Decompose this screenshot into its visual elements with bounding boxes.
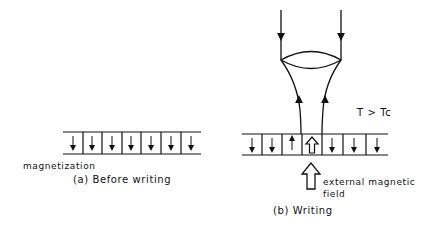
- external-field-label-line2: field: [323, 189, 345, 199]
- left-magnetic-layer: [63, 132, 201, 154]
- temperature-condition: T > Tc: [357, 107, 391, 118]
- external-field-label-line1: external magnetic: [323, 177, 415, 187]
- left-magnetization-arrows: [73, 136, 191, 148]
- laser-beam: [281, 10, 341, 134]
- focusing-lens: [281, 52, 341, 69]
- caption-before-writing: (a) Before writing: [73, 174, 171, 185]
- magnetization-label: magnetization: [23, 161, 96, 171]
- external-field-arrow-icon: [302, 163, 320, 189]
- reversed-magnetization-icon: [306, 137, 318, 153]
- caption-writing: (b) Writing: [273, 205, 333, 216]
